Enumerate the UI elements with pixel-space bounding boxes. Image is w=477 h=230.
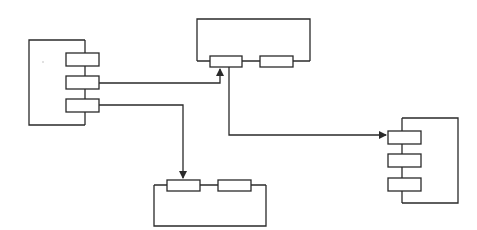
port-right-2 [388,154,421,167]
connector-arrow-2 [99,105,183,178]
block-bottom [154,180,266,226]
block-right [388,118,458,203]
port-bottom-2 [218,180,251,191]
port-left-1 [66,53,99,66]
connector-arrow-1 [99,69,220,83]
scan-artifact-dot [42,61,44,63]
port-left-3 [66,99,99,112]
containers-group [29,19,458,226]
port-top-2 [260,56,293,67]
block-top [197,19,310,67]
port-left-2 [66,76,99,89]
port-right-3 [388,178,421,191]
block-outline [197,19,310,61]
block-left [29,40,99,125]
connector-arrow-3 [229,67,386,135]
diagram-canvas [0,0,477,230]
port-top-1 [210,56,242,67]
connections-group [99,67,386,178]
port-bottom-1 [167,180,200,191]
port-right-1 [388,131,421,144]
